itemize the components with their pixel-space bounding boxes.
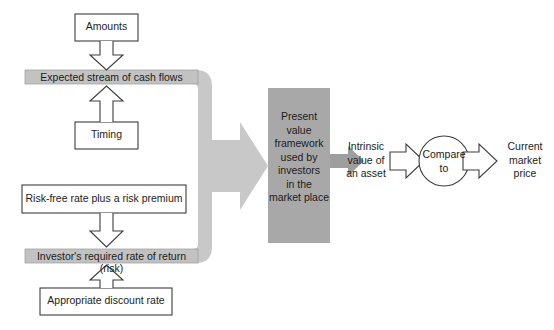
label-risk-free-rate: Risk-free rate plus a risk premium — [22, 192, 186, 204]
framework-line: used by — [266, 151, 332, 165]
diagram-canvas: Amounts Expected stream of cash flows Ti… — [0, 0, 554, 330]
framework-line: Present — [266, 110, 332, 124]
framework-line: value — [266, 124, 332, 138]
price-line: market — [500, 154, 550, 168]
compare-line: to — [414, 162, 474, 176]
framework-line: in the — [266, 178, 332, 192]
intrinsic-line: an asset — [340, 167, 392, 181]
framework-line: framework — [266, 137, 332, 151]
label-required-rate-of-return: Investor's required rate of return (risk… — [25, 250, 198, 275]
label-current-market-price: Current market price — [500, 140, 550, 181]
arrow-amounts-down — [90, 41, 123, 70]
price-line: price — [500, 167, 550, 181]
intrinsic-line: value of — [340, 154, 392, 168]
framework-line: market place — [266, 191, 332, 205]
arrow-timing-up — [90, 86, 123, 122]
bracket-to-framework-arrow — [212, 122, 268, 210]
label-intrinsic-value: Intrinsic value of an asset — [340, 140, 392, 181]
label-amounts: Amounts — [75, 20, 138, 32]
framework-line: investors — [266, 164, 332, 178]
label-compare-to: Compare to — [414, 148, 474, 175]
label-present-value-framework: Present value framework used by investor… — [266, 110, 332, 205]
label-expected-cash-flows: Expected stream of cash flows — [25, 71, 198, 83]
label-appropriate-discount-rate: Appropriate discount rate — [40, 294, 172, 306]
intrinsic-line: Intrinsic — [340, 140, 392, 154]
compare-line: Compare — [414, 148, 474, 162]
label-timing: Timing — [75, 128, 138, 140]
arrow-riskfree-down — [90, 213, 123, 247]
price-line: Current — [500, 140, 550, 154]
